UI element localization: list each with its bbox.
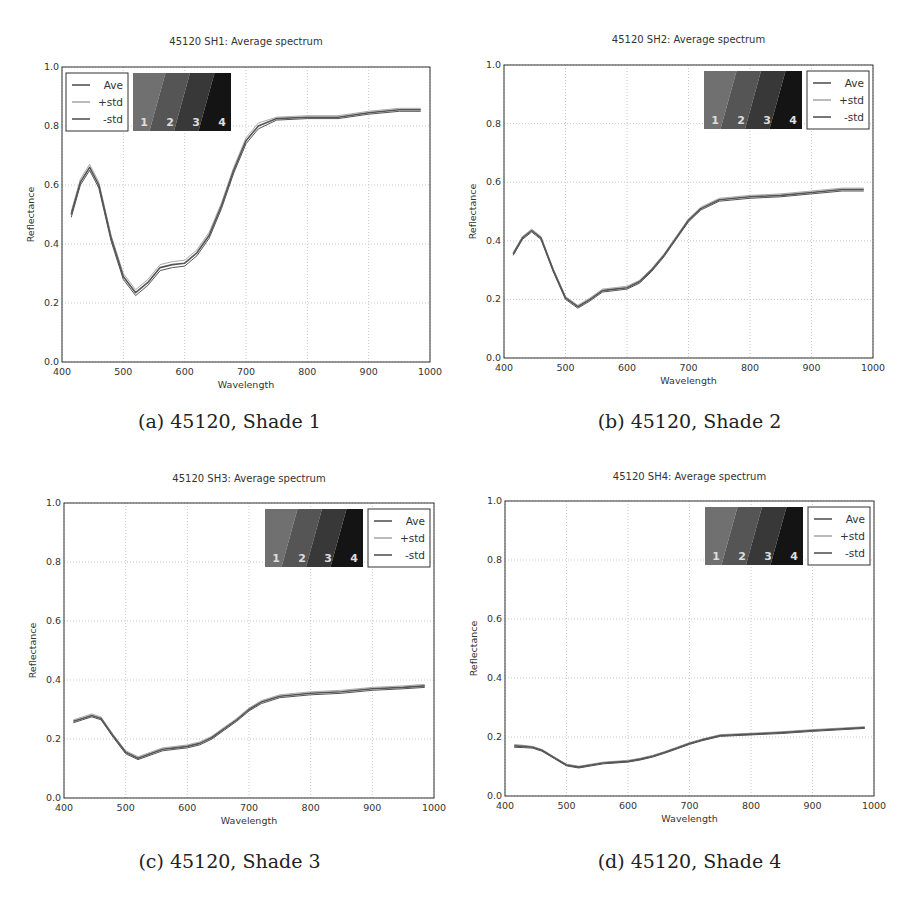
- x-axis-label: Wavelength: [221, 815, 277, 826]
- legend-entry: Ave: [846, 513, 865, 525]
- shade-label: 1: [711, 114, 719, 127]
- y-tick-label: 0.8: [487, 554, 502, 565]
- y-tick-label: 0.0: [44, 356, 59, 367]
- shade-label: 2: [298, 552, 306, 565]
- chart-d: 45120 SH4: Average spectrum4005006007008…: [460, 458, 919, 858]
- x-tick-label: 400: [55, 802, 73, 813]
- legend: Ave+std-std: [66, 73, 128, 131]
- panel-d: 45120 SH4: Average spectrum4005006007008…: [460, 458, 919, 898]
- panel-c: 45120 SH3: Average spectrum4005006007008…: [0, 458, 459, 898]
- x-tick-label: 500: [556, 362, 574, 373]
- legend-entry: -std: [844, 111, 864, 123]
- x-tick-label: 1000: [422, 802, 446, 813]
- caption-d: (d) 45120, Shade 4: [460, 850, 919, 872]
- shade-swatch: 1234: [133, 73, 231, 131]
- x-tick-label: 400: [53, 366, 71, 377]
- caption-c: (c) 45120, Shade 3: [0, 850, 459, 872]
- y-tick-label: 0.4: [44, 238, 59, 249]
- shade-label: 4: [789, 114, 797, 127]
- x-tick-label: 800: [741, 362, 759, 373]
- shade-label: 1: [140, 116, 148, 129]
- x-tick-label: 500: [114, 366, 132, 377]
- x-tick-label: 600: [619, 800, 637, 811]
- y-tick-label: 0.0: [487, 790, 502, 801]
- x-tick-label: 700: [240, 802, 258, 813]
- x-tick-label: 700: [679, 362, 697, 373]
- chart-a: 45120 SH1: Average spectrum4005006007008…: [0, 0, 459, 400]
- x-tick-label: 600: [618, 362, 636, 373]
- y-tick-label: 0.2: [486, 293, 501, 304]
- caption-a: (a) 45120, Shade 1: [0, 410, 459, 432]
- y-tick-label: 0.6: [486, 176, 501, 187]
- x-tick-label: 400: [495, 362, 513, 373]
- legend-entry: Ave: [845, 77, 864, 89]
- legend-entry: +std: [98, 96, 123, 108]
- shade-label: 3: [324, 552, 332, 565]
- y-tick-label: 0.8: [46, 556, 61, 567]
- shade-swatch: 1234: [704, 71, 802, 129]
- y-tick-label: 0.8: [44, 120, 59, 131]
- x-tick-label: 900: [360, 366, 378, 377]
- legend-entry: -std: [405, 549, 425, 561]
- y-tick-label: 0.6: [44, 179, 59, 190]
- legend-entry: -std: [845, 547, 865, 559]
- shade-label: 2: [737, 114, 745, 127]
- x-tick-label: 700: [680, 800, 698, 811]
- x-tick-label: 1000: [861, 362, 885, 373]
- legend-entry: -std: [103, 113, 123, 125]
- shade-label: 3: [192, 116, 200, 129]
- x-tick-label: 900: [803, 800, 821, 811]
- caption-b: (b) 45120, Shade 2: [460, 410, 919, 432]
- x-axis-label: Wavelength: [661, 813, 717, 824]
- x-tick-label: 500: [117, 802, 135, 813]
- x-tick-label: 700: [237, 366, 255, 377]
- x-tick-label: 600: [178, 802, 196, 813]
- chart-c: 45120 SH3: Average spectrum4005006007008…: [0, 458, 459, 858]
- x-tick-label: 1000: [418, 366, 442, 377]
- shade-label: 1: [272, 552, 280, 565]
- shade-label: 4: [218, 116, 226, 129]
- y-tick-label: 1.0: [486, 59, 501, 70]
- y-axis-label: Reflectance: [468, 620, 479, 676]
- y-tick-label: 0.4: [46, 674, 61, 685]
- shade-label: 2: [738, 550, 746, 563]
- x-tick-label: 800: [302, 802, 320, 813]
- chart-b: 45120 SH2: Average spectrum4005006007008…: [460, 0, 919, 400]
- y-tick-label: 0.4: [487, 672, 502, 683]
- y-tick-label: 0.2: [44, 297, 59, 308]
- y-tick-label: 1.0: [44, 61, 59, 72]
- y-tick-label: 0.6: [487, 613, 502, 624]
- y-tick-label: 1.0: [487, 495, 502, 506]
- shade-swatch: 1234: [265, 509, 363, 567]
- legend: Ave+std-std: [807, 71, 869, 129]
- y-tick-label: 0.4: [486, 235, 501, 246]
- chart-title: 45120 SH2: Average spectrum: [612, 34, 765, 45]
- legend: Ave+std-std: [808, 507, 870, 565]
- x-tick-label: 500: [557, 800, 575, 811]
- shade-label: 3: [764, 550, 772, 563]
- x-tick-label: 600: [176, 366, 194, 377]
- y-tick-label: 0.6: [46, 615, 61, 626]
- y-axis-label: Reflectance: [467, 183, 478, 239]
- chart-title: 45120 SH4: Average spectrum: [613, 471, 766, 482]
- legend-entry: +std: [840, 530, 865, 542]
- legend-entry: +std: [400, 532, 425, 544]
- shade-label: 1: [712, 550, 720, 563]
- y-tick-label: 0.8: [486, 118, 501, 129]
- panel-a: 45120 SH1: Average spectrum4005006007008…: [0, 0, 459, 440]
- x-tick-label: 400: [496, 800, 514, 811]
- x-tick-label: 900: [802, 362, 820, 373]
- x-tick-label: 900: [363, 802, 381, 813]
- y-axis-label: Reflectance: [27, 622, 38, 678]
- shade-swatch: 1234: [705, 507, 803, 565]
- y-tick-label: 0.2: [487, 731, 502, 742]
- shade-label: 2: [166, 116, 174, 129]
- legend-entry: Ave: [104, 79, 123, 91]
- shade-label: 4: [790, 550, 798, 563]
- y-tick-label: 1.0: [46, 497, 61, 508]
- x-tick-label: 800: [298, 366, 316, 377]
- y-tick-label: 0.0: [486, 352, 501, 363]
- shade-label: 4: [350, 552, 358, 565]
- y-axis-label: Reflectance: [25, 186, 36, 242]
- x-axis-label: Wavelength: [218, 379, 274, 390]
